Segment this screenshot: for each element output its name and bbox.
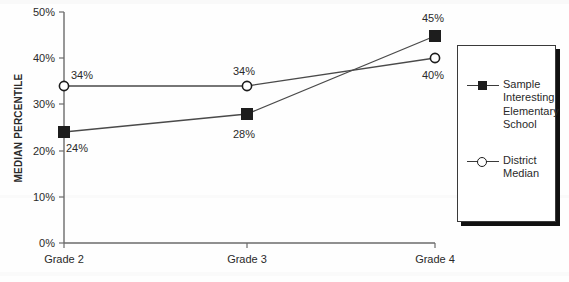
value-label-district-grade-4: 40% (422, 69, 444, 81)
y-tick-label-30: 30% (33, 98, 55, 110)
value-label-district-grade-2: 34% (71, 69, 93, 81)
marker-district-grade-4 (430, 53, 439, 62)
chart-legend: Sample Interesting Elementary School Dis… (457, 45, 556, 222)
value-label-school-grade-4: 45% (422, 12, 444, 24)
y-tick-label-40: 40% (33, 52, 55, 64)
open-circle-marker-icon (467, 155, 499, 169)
marker-district-grade-3 (242, 81, 251, 90)
x-tick-label-grade-3: Grade 3 (227, 253, 267, 265)
marker-school-grade-2 (59, 127, 70, 138)
value-label-district-grade-3: 34% (233, 65, 255, 77)
legend-entry-sample-school: Sample Interesting Elementary School (467, 78, 559, 132)
y-tick-label-50: 50% (33, 6, 55, 18)
value-label-school-grade-2: 24% (66, 142, 88, 154)
y-tick-label-20: 20% (33, 145, 55, 157)
value-label-school-grade-3: 28% (233, 128, 255, 140)
marker-school-grade-3 (242, 109, 253, 120)
marker-school-grade-4 (430, 31, 441, 42)
x-tick-label-grade-4: Grade 4 (415, 253, 455, 265)
legend-entry-district-median: District Median (467, 154, 539, 181)
marker-district-grade-2 (59, 81, 68, 90)
y-tick-label-0: 0% (39, 237, 55, 249)
legend-label-district-median: District Median (503, 154, 539, 181)
y-tick-label-10: 10% (33, 191, 55, 203)
legend-label-sample-school: Sample Interesting Elementary School (503, 78, 559, 132)
y-axis-title: MEDIAN PERCENTILE (13, 73, 24, 182)
x-tick-label-grade-2: Grade 2 (44, 253, 84, 265)
chart-page: MEDIAN PERCENTILE 50% 40% 30% 20% 10% 0%… (0, 0, 569, 282)
filled-square-marker-icon (467, 79, 499, 93)
